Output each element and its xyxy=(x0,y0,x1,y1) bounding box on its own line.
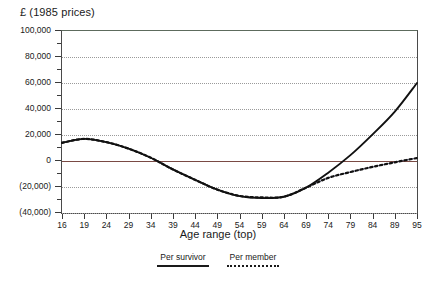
x-tick-mark xyxy=(173,214,174,219)
legend-item-1[interactable]: Per survivor xyxy=(157,252,209,271)
series-line-1 xyxy=(62,83,417,198)
y-axis-ticks: 100,00080,00060,00040,00020,0000(20,000)… xyxy=(0,30,59,214)
x-tick-mark xyxy=(328,214,329,219)
y-tick-label: 20,000 xyxy=(25,129,51,139)
x-tick-mark xyxy=(84,214,85,219)
x-tick-mark xyxy=(350,214,351,219)
x-tick-mark xyxy=(262,214,263,219)
legend-label: Per member xyxy=(230,252,277,262)
y-tick-label: (40,000) xyxy=(19,207,51,217)
x-tick-mark xyxy=(151,214,152,219)
y-tick-label: 100,000 xyxy=(20,25,51,35)
y-tick-label: (20,000) xyxy=(19,181,51,191)
x-axis-title: Age range (top) xyxy=(0,228,436,240)
legend-label: Per survivor xyxy=(160,252,205,262)
legend-swatch-solid xyxy=(157,265,209,271)
x-tick-mark xyxy=(106,214,107,219)
x-tick-mark xyxy=(195,214,196,219)
series-svg xyxy=(62,31,417,213)
x-tick-mark xyxy=(129,214,130,219)
chart-figure: £ (1985 prices) 100,00080,00060,00040,00… xyxy=(0,0,436,283)
y-tick-label: 60,000 xyxy=(25,77,51,87)
per-member-tail-tint xyxy=(306,158,417,188)
x-tick-mark xyxy=(240,214,241,219)
x-tick-mark xyxy=(417,214,418,219)
legend-swatch-dotted xyxy=(227,265,279,271)
legend-item-2[interactable]: Per member xyxy=(227,252,279,271)
x-tick-mark xyxy=(284,214,285,219)
x-tick-mark xyxy=(373,214,374,219)
y-tick-label: 0 xyxy=(46,155,51,165)
y-axis-unit-caption: £ (1985 prices) xyxy=(20,6,95,18)
x-tick-mark xyxy=(395,214,396,219)
data-layer xyxy=(62,31,417,213)
plot-area xyxy=(61,30,418,214)
chart-legend: Per survivorPer member xyxy=(0,252,436,271)
x-tick-mark xyxy=(62,214,63,219)
y-tick-label: 40,000 xyxy=(25,103,51,113)
y-tick-label: 80,000 xyxy=(25,51,51,61)
x-tick-mark xyxy=(217,214,218,219)
x-tick-mark xyxy=(306,214,307,219)
series-line-2 xyxy=(62,139,417,198)
